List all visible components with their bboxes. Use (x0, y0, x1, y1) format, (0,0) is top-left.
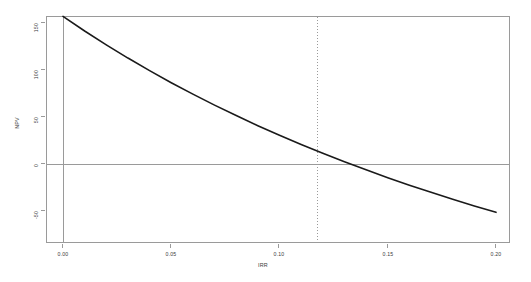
x-tick-005 (170, 244, 171, 248)
x-tick-010 (278, 244, 279, 248)
y-tick-0 (41, 163, 45, 164)
y-tick-150 (41, 22, 45, 23)
x-tick-020 (495, 244, 496, 248)
y-tick-label-50: 50 (33, 117, 39, 137)
y-tick-100 (41, 69, 45, 70)
x-axis-title: IRR (258, 262, 268, 268)
y-tick-label-0: 0 (33, 164, 39, 184)
x-tick-label-010: 0.10 (269, 251, 289, 257)
y-tick-50 (41, 116, 45, 117)
y-axis-title: NPV (14, 108, 20, 138)
npv-curve (47, 17, 510, 243)
y-tick-neg50 (41, 210, 45, 211)
x-tick-label-000: 0.00 (53, 251, 73, 257)
x-tick-000 (62, 244, 63, 248)
x-tick-label-005: 0.05 (161, 251, 181, 257)
y-tick-label-100: 100 (33, 70, 39, 90)
x-tick-label-020: 0.20 (486, 251, 506, 257)
x-tick-015 (387, 244, 388, 248)
y-tick-label-150: 150 (33, 23, 39, 43)
plot-area (46, 16, 510, 243)
x-tick-label-015: 0.15 (378, 251, 398, 257)
y-tick-label-neg50: -50 (33, 211, 39, 231)
chart-screenshot: NPV IRR 150 100 50 0 -50 0.00 0.05 0.10 … (0, 0, 531, 282)
